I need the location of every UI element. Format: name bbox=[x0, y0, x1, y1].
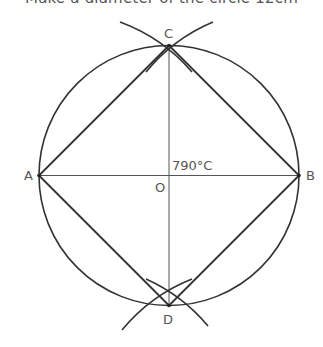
point-c-dot bbox=[167, 44, 171, 48]
arc-from-b-top bbox=[146, 22, 213, 72]
side-bd bbox=[169, 176, 299, 306]
label-d: D bbox=[163, 312, 173, 327]
point-a-dot bbox=[37, 174, 41, 178]
point-d-dot bbox=[167, 304, 171, 308]
label-o: O bbox=[155, 180, 165, 195]
label-b: B bbox=[306, 168, 315, 183]
side-da bbox=[39, 176, 169, 306]
label-a: A bbox=[24, 168, 33, 183]
label-c: C bbox=[164, 26, 173, 41]
side-cb bbox=[169, 46, 299, 176]
point-b-dot bbox=[297, 174, 301, 178]
angle-annotation: 790°C bbox=[172, 158, 212, 173]
side-ac bbox=[39, 46, 169, 176]
arc-from-a-top bbox=[120, 22, 192, 72]
geometry-diagram: C A B D O 790°C bbox=[0, 0, 323, 347]
